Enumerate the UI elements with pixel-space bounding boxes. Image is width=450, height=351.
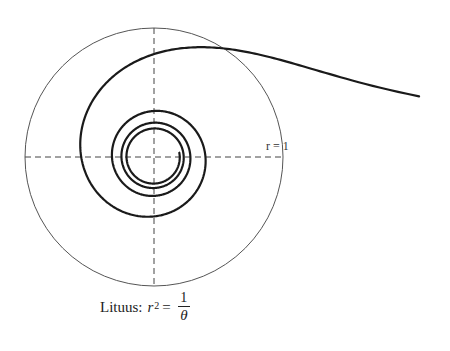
unit-circle: [25, 28, 283, 286]
lituus-curve: [80, 47, 419, 217]
caption-exponent: 2: [154, 300, 159, 311]
fraction-denominator: θ: [180, 307, 187, 323]
caption-prefix: Lituus:: [100, 299, 143, 316]
unit-circle-label: r = 1: [266, 139, 289, 154]
lituus-diagram: [0, 0, 450, 351]
fraction-numerator: 1: [178, 291, 189, 306]
caption-equals: =: [162, 299, 170, 316]
caption-fraction: 1 θ: [178, 291, 190, 323]
figure-caption: Lituus: r 2 = 1 θ: [100, 291, 190, 323]
caption-lhs-var: r: [148, 299, 154, 316]
